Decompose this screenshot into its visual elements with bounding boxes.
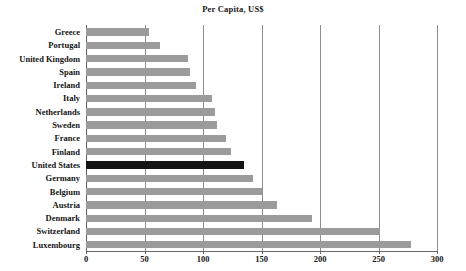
- bar-greece: [86, 28, 149, 35]
- y-axis-label-belgium: Belgium: [50, 185, 80, 199]
- gridline-300: [437, 25, 438, 251]
- y-axis-label-france: France: [55, 131, 81, 145]
- y-axis-label-luxembourg: Luxembourg: [33, 238, 80, 252]
- bar-luxembourg: [86, 241, 411, 248]
- x-axis-label-250: 250: [372, 254, 385, 264]
- x-axis-tick-250: [379, 251, 380, 254]
- bar-chart: Per Capita, US$ GreecePortugalUnited Kin…: [0, 0, 466, 271]
- bar-row: [86, 238, 437, 252]
- bar-row: [86, 211, 437, 225]
- y-axis-label-germany: Germany: [46, 171, 80, 185]
- bar-germany: [86, 175, 253, 182]
- bar-ireland: [86, 82, 196, 89]
- bar-belgium: [86, 188, 262, 195]
- bar-row: [86, 25, 437, 39]
- y-axis-category-labels: GreecePortugalUnited KingdomSpainIreland…: [0, 25, 83, 251]
- y-axis-label-denmark: Denmark: [46, 211, 80, 225]
- y-axis-label-austria: Austria: [53, 198, 80, 212]
- bar-row: [86, 224, 437, 238]
- bar-italy: [86, 95, 212, 102]
- y-axis-label-netherlands: Netherlands: [36, 105, 80, 119]
- y-axis-label-sweden: Sweden: [52, 118, 80, 132]
- bar-row: [86, 91, 437, 105]
- bar-united-kingdom: [86, 55, 188, 62]
- y-axis-label-united-states: United States: [32, 158, 80, 172]
- bar-sweden: [86, 121, 217, 128]
- x-axis-label-0: 0: [84, 254, 88, 264]
- y-axis-label-united-kingdom: United Kingdom: [19, 52, 80, 66]
- bar-row: [86, 65, 437, 79]
- x-axis-tick-100: [203, 251, 204, 254]
- bar-row: [86, 185, 437, 199]
- bar-row: [86, 171, 437, 185]
- y-axis-label-italy: Italy: [63, 91, 80, 105]
- x-axis-label-50: 50: [140, 254, 149, 264]
- y-axis-label-switzerland: Switzerland: [37, 224, 80, 238]
- y-axis-label-greece: Greece: [55, 25, 80, 39]
- x-axis-label-150: 150: [255, 254, 268, 264]
- x-axis-tick-200: [320, 251, 321, 254]
- bar-netherlands: [86, 108, 215, 115]
- bar-switzerland: [86, 228, 380, 235]
- chart-title: Per Capita, US$: [0, 4, 466, 14]
- y-axis-label-finland: Finland: [52, 145, 80, 159]
- bar-denmark: [86, 215, 312, 222]
- bar-row: [86, 118, 437, 132]
- bar-finland: [86, 148, 231, 155]
- x-axis-tick-150: [262, 251, 263, 254]
- bar-united-states: [86, 161, 244, 169]
- bars-layer: [86, 25, 437, 251]
- y-axis-label-spain: Spain: [59, 65, 80, 79]
- x-axis-label-200: 200: [314, 254, 327, 264]
- y-axis-label-portugal: Portugal: [48, 38, 80, 52]
- bar-row: [86, 158, 437, 172]
- bar-row: [86, 198, 437, 212]
- bar-row: [86, 145, 437, 159]
- bar-row: [86, 131, 437, 145]
- x-axis-label-100: 100: [197, 254, 210, 264]
- bar-row: [86, 78, 437, 92]
- bar-row: [86, 52, 437, 66]
- x-axis-tick-50: [145, 251, 146, 254]
- bar-spain: [86, 68, 190, 75]
- bar-portugal: [86, 42, 160, 49]
- x-axis-tick-labels: 050100150200250300: [86, 254, 437, 268]
- x-axis-tick-0: [86, 251, 87, 254]
- x-axis-tick-300: [437, 251, 438, 254]
- plot-area: [86, 25, 437, 251]
- bar-row: [86, 38, 437, 52]
- y-axis-label-ireland: Ireland: [53, 78, 80, 92]
- bar-france: [86, 135, 226, 142]
- bar-austria: [86, 201, 277, 208]
- bar-row: [86, 105, 437, 119]
- x-axis-label-300: 300: [431, 254, 444, 264]
